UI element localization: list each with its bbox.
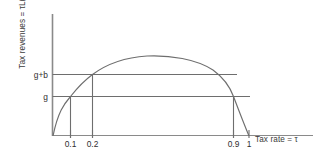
x-tick-label-0-1: 0.1 bbox=[59, 139, 82, 149]
x-axis-title: Tax rate = τ bbox=[255, 135, 298, 144]
y-tick-label-g-plus-b: g+b bbox=[22, 70, 48, 80]
x-tick-label-0-9: 0.9 bbox=[222, 139, 245, 149]
laffer-curve-path bbox=[53, 56, 249, 136]
laffer-curve-figure: Tax revenues = τL(τ) Tax rate = τ g+b g … bbox=[0, 0, 319, 158]
y-tick-label-g: g bbox=[22, 92, 48, 102]
x-tick-label-1: 1 bbox=[243, 139, 255, 149]
x-tick-label-0-2: 0.2 bbox=[81, 139, 104, 149]
